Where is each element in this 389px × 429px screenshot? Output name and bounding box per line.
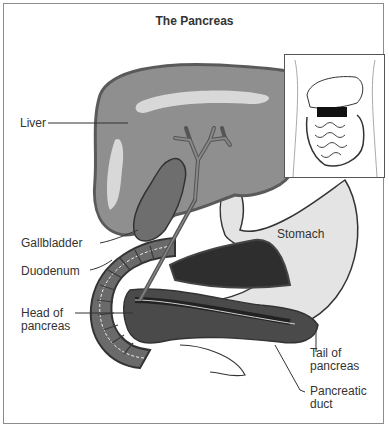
label-gallbladder: Gallbladder	[21, 237, 82, 250]
inset-pancreas	[317, 107, 347, 117]
stomach-cutaway	[170, 240, 290, 288]
torso-inset-icon	[285, 55, 384, 177]
inset-intestines	[307, 115, 364, 166]
label-head-line2: pancreas	[21, 320, 70, 333]
label-stomach: Stomach	[277, 228, 324, 241]
label-tail-of-pancreas: Tail of pancreas	[310, 347, 359, 373]
label-duct-line2: duct	[310, 398, 367, 411]
label-pancreatic-duct: Pancreatic duct	[310, 385, 367, 411]
inset-liver	[307, 77, 363, 109]
label-liver: Liver	[20, 117, 46, 130]
label-duodenum: Duodenum	[21, 265, 80, 278]
label-head-of-pancreas: Head of pancreas	[21, 307, 70, 333]
location-inset	[284, 54, 385, 178]
label-tail-line2: pancreas	[310, 360, 359, 373]
